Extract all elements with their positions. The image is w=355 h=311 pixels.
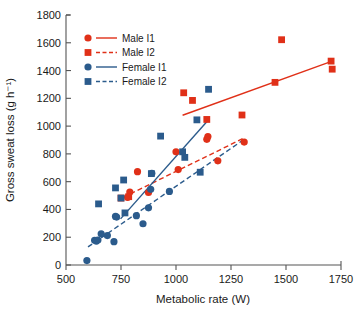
- data-point-male-i2: [278, 36, 285, 43]
- data-point-male-i1: [214, 157, 221, 164]
- y-tick-label: 1400: [37, 65, 61, 77]
- x-tick-label: 1500: [274, 273, 298, 285]
- y-tick-label: 1200: [37, 92, 61, 104]
- x-axis-title: Metabolic rate (W): [156, 293, 250, 305]
- data-point-female-i2: [157, 133, 164, 140]
- data-point-female-i1: [145, 204, 152, 211]
- data-point-male-i1: [134, 168, 141, 175]
- data-point-female-i2: [118, 195, 125, 202]
- y-axis-title: Gross sweat loss (g h⁻¹): [4, 78, 16, 202]
- data-point-female-i1: [147, 186, 154, 193]
- data-point-female-i1: [139, 220, 146, 227]
- x-tick-label: 750: [112, 273, 130, 285]
- y-tick-label: 600: [43, 176, 61, 188]
- data-point-male-i2: [272, 79, 279, 86]
- y-tick-label: 400: [43, 203, 61, 215]
- data-point-female-i1: [83, 257, 90, 264]
- legend-label-female-i2: Female I2: [122, 76, 167, 87]
- x-tick-label: 1000: [164, 273, 188, 285]
- legend-marker-female-i1: [84, 63, 91, 70]
- data-point-male-i2: [189, 97, 196, 104]
- y-tick-label: 200: [43, 231, 61, 243]
- x-tick-label: 1250: [219, 273, 243, 285]
- y-tick-label: 0: [55, 259, 61, 271]
- legend: Male I1Male I2Female I1Female I2: [84, 33, 167, 88]
- y-tick-label: 1000: [37, 120, 61, 132]
- y-tick-label: 800: [43, 148, 61, 160]
- data-point-male-i1: [204, 133, 211, 140]
- legend-marker-male-i1: [84, 34, 91, 41]
- data-point-female-i2: [148, 170, 155, 177]
- data-point-male-i2: [328, 58, 335, 65]
- legend-label-male-i2: Male I2: [122, 47, 155, 58]
- regression-line-male-i1: [183, 61, 333, 115]
- data-point-female-i2: [95, 200, 102, 207]
- data-point-male-i2: [329, 66, 336, 73]
- legend-marker-female-i2: [85, 78, 92, 85]
- data-point-male-i2: [203, 116, 210, 123]
- data-point-female-i2: [194, 116, 201, 123]
- x-tick-label: 500: [57, 273, 75, 285]
- regression-line-female-i2: [88, 139, 244, 247]
- x-tick-label: 1750: [329, 273, 353, 285]
- y-tick-label: 1800: [37, 9, 61, 21]
- data-point-female-i2: [181, 154, 188, 161]
- regression-line-female-i1: [121, 119, 209, 219]
- data-point-female-i2: [205, 86, 212, 93]
- y-tick-label: 1600: [37, 37, 61, 49]
- data-point-male-i1: [172, 148, 179, 155]
- data-point-female-i1: [133, 212, 140, 219]
- data-point-male-i1: [175, 166, 182, 173]
- legend-label-male-i1: Male I1: [122, 33, 155, 44]
- data-point-female-i1: [98, 230, 105, 237]
- x-axis-ticks: 5007501000125015001750: [57, 265, 353, 285]
- data-point-female-i2: [197, 169, 204, 176]
- legend-label-female-i1: Female I1: [122, 62, 167, 73]
- data-point-female-i2: [122, 210, 129, 217]
- data-point-female-i1: [113, 213, 120, 220]
- data-point-male-i2: [125, 193, 132, 200]
- data-point-female-i1: [94, 236, 101, 243]
- data-point-male-i2: [180, 89, 187, 96]
- data-point-female-i1: [166, 188, 173, 195]
- chart-canvas: 020040060080010001200140016001800 500750…: [0, 0, 355, 311]
- scatter-plot-figure: 020040060080010001200140016001800 500750…: [0, 0, 355, 311]
- data-point-female-i2: [112, 185, 119, 192]
- data-point-female-i1: [104, 232, 111, 239]
- data-point-male-i2: [239, 112, 246, 119]
- data-point-female-i2: [120, 177, 127, 184]
- data-point-female-i1: [110, 238, 117, 245]
- data-point-male-i1: [241, 138, 248, 145]
- legend-marker-male-i2: [85, 49, 92, 56]
